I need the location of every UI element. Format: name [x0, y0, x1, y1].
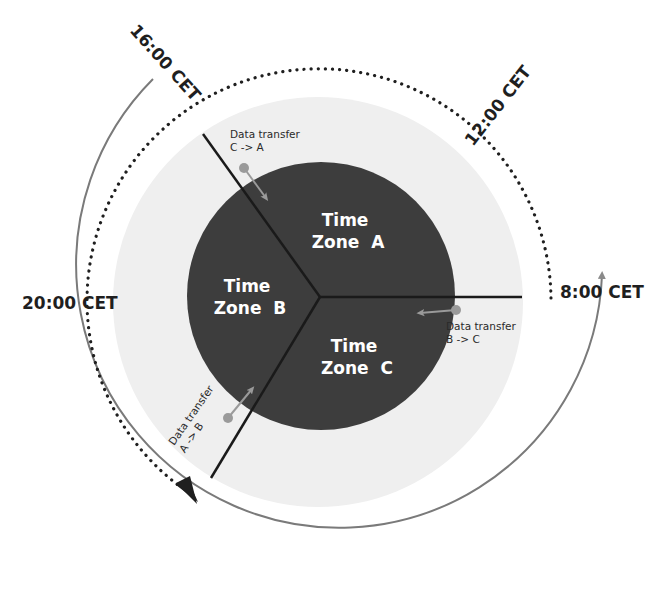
time-label-12: 12:00 CET	[460, 61, 535, 149]
time-zone-diagram: Time Zone A Time Zone B Time Zone C Data…	[0, 0, 664, 602]
time-label-16: 16:00 CET	[126, 20, 205, 105]
arrowhead-fill	[176, 476, 197, 504]
time-label-20: 20:00 CET	[22, 293, 118, 313]
time-label-8: 8:00 CET	[560, 282, 644, 302]
